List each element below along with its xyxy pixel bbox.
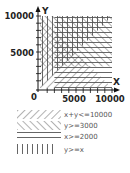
legend: x+y<=10000 y>=3000 x>=2000 y>=x bbox=[17, 110, 112, 154]
inequality-diagram: Y X 0 10000 5000 5000 10000 x+y<=10000 y… bbox=[0, 0, 130, 173]
legend-item: y>=x bbox=[17, 144, 84, 154]
x-axis-arrow-icon bbox=[114, 88, 120, 93]
legend-item: x>=2000 bbox=[17, 132, 98, 141]
x-tick-label-10000: 10000 bbox=[95, 94, 125, 104]
legend-item: y>=3000 bbox=[17, 121, 98, 130]
x-axis-label: X bbox=[113, 77, 120, 87]
legend-swatch-diagonal-forward bbox=[17, 110, 61, 119]
hatched-regions bbox=[40, 16, 112, 88]
legend-swatch-vertical bbox=[17, 144, 53, 154]
y-axis-arrow-icon bbox=[36, 6, 41, 12]
origin-label: 0 bbox=[31, 92, 37, 102]
legend-label: y>=x bbox=[64, 146, 84, 154]
legend-label: x>=2000 bbox=[64, 133, 98, 141]
y-tick-label-10000: 10000 bbox=[4, 11, 34, 21]
y-axis-label: Y bbox=[41, 6, 49, 16]
x-tick-label-5000: 5000 bbox=[62, 94, 86, 104]
legend-label: x+y<=10000 bbox=[64, 111, 112, 119]
y-tick-label-5000: 5000 bbox=[10, 48, 34, 58]
legend-swatch-horizontal bbox=[17, 132, 61, 141]
legend-item: x+y<=10000 bbox=[17, 110, 112, 119]
legend-label: y>=3000 bbox=[64, 122, 98, 130]
legend-swatch-diagonal-backward bbox=[17, 121, 61, 130]
